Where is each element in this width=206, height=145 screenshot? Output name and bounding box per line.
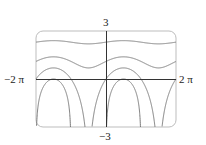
x-max-label: 2 π (179, 74, 193, 85)
y-max-label: 3 (103, 17, 109, 28)
x-min-label: −2 π (4, 74, 24, 85)
y-min-label: −3 (99, 131, 111, 142)
